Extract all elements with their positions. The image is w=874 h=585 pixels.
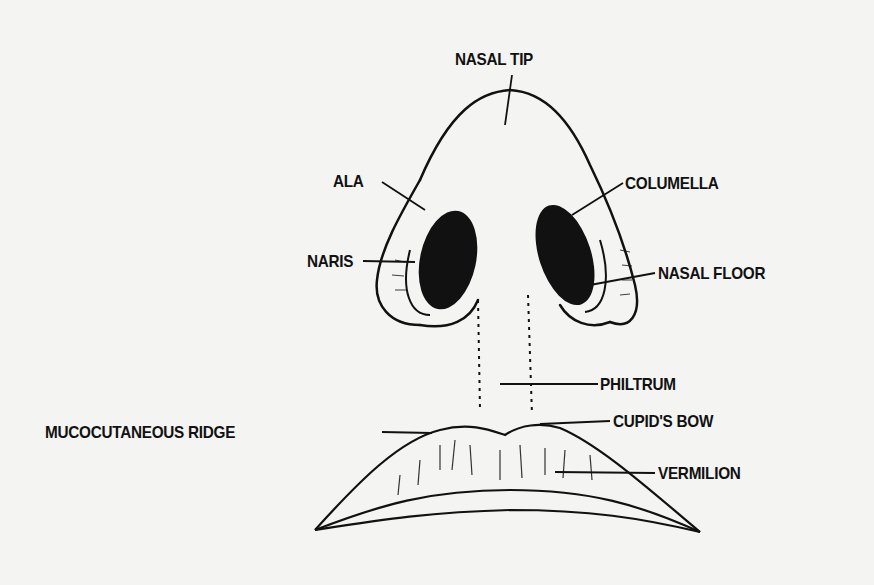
right-naris bbox=[524, 198, 606, 313]
label-philtrum: PHILTRUM bbox=[600, 375, 676, 395]
label-nasal-floor: NASAL FLOOR bbox=[658, 264, 765, 284]
label-naris: NARIS bbox=[307, 252, 353, 272]
nose-lip-drawing bbox=[0, 0, 874, 585]
label-mucocutaneous-ridge: MUCOCUTANEOUS RIDGE bbox=[45, 423, 235, 443]
label-columella: COLUMELLA bbox=[625, 174, 719, 194]
label-nasal-tip: NASAL TIP bbox=[455, 50, 533, 70]
label-ala: ALA bbox=[333, 172, 364, 192]
lips bbox=[315, 425, 700, 532]
label-cupids-bow: CUPID'S BOW bbox=[613, 412, 713, 432]
left-naris bbox=[406, 205, 486, 315]
label-vermilion: VERMILION bbox=[658, 464, 741, 484]
